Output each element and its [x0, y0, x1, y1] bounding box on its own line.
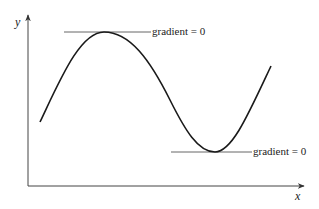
- y-axis-label: y: [14, 15, 21, 29]
- sine-curve: [40, 32, 271, 152]
- maximum-gradient-label: gradient = 0: [152, 25, 206, 37]
- stationary-points-diagram: y x gradient = 0 gradient = 0: [0, 0, 319, 209]
- x-axis-label: x: [294, 189, 301, 203]
- minimum-gradient-label: gradient = 0: [253, 145, 307, 157]
